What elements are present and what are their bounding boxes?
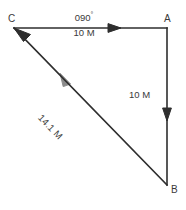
bearing-label: 090° — [0, 11, 186, 24]
degree-symbol-icon: ° — [91, 11, 94, 18]
edge-a-to-b-arrowhead-icon — [163, 108, 172, 121]
bearing-value: 090 — [75, 12, 91, 23]
edge-b-to-c-line — [14, 28, 167, 185]
edge-group — [14, 24, 171, 185]
vertex-label-b: B — [171, 185, 178, 195]
edge-b-to-c-mid-arrowhead-icon — [60, 73, 71, 86]
top-distance-label: 10 M — [0, 27, 186, 39]
right-distance-label: 10 M — [129, 89, 150, 101]
vector-triangle-diagram: C A B 090° 10 M 10 M 14.1 M — [0, 0, 186, 210]
